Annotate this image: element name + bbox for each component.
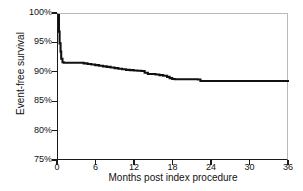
y-tick-label-85: 85% [8,95,52,105]
event-free-survival-chart: Event-free survival 100% 95% 90% 85% 80%… [0,0,303,191]
survival-curve-line [58,14,289,81]
x-axis-title: Months post index procedure [57,172,289,183]
plot-area [57,13,288,160]
y-tick-label-90: 90% [8,66,52,76]
survival-curve-svg [58,14,289,161]
y-tick-label-80: 80% [8,125,52,135]
y-tick-label-100: 100% [8,7,52,17]
y-tick-label-95: 95% [8,36,52,46]
